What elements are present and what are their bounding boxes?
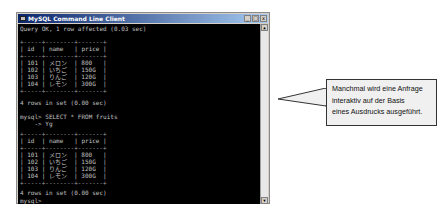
table-row: | 104 | レモン | 300G |	[20, 80, 107, 87]
mysql-console-window: MySQL Command Line Client _ □ x Query OK…	[16, 12, 270, 204]
query-continuation: -> Yg	[20, 120, 53, 127]
table-separator: +-----+--------+-------+	[20, 179, 107, 186]
table-header: | id | name | price |	[20, 137, 107, 144]
close-button[interactable]: x	[260, 15, 267, 22]
window-title: MySQL Command Line Client	[28, 14, 125, 23]
table-separator: +-----+--------+-------+	[20, 38, 107, 45]
table-row: | 103 | りんご | 120G |	[20, 165, 107, 172]
callout-text-line: Manchmal wird eine Anfrage	[332, 83, 431, 95]
table-separator: +-----+--------+-------+	[20, 130, 107, 137]
scroll-down-arrow-icon[interactable]: ▼	[261, 197, 268, 204]
result-summary: 4 rows in set (0.00 sec)	[20, 99, 107, 106]
table-row: | 101 | メロン | 800 |	[20, 59, 107, 66]
table-row: | 101 | メロン | 800 |	[20, 151, 107, 158]
table-separator: +-----+--------+-------+	[20, 52, 107, 59]
table-row: | 103 | りんご | 120G |	[20, 73, 107, 80]
result-summary: 4 rows in set (0.00 sec)	[20, 189, 107, 196]
table-separator: +-----+--------+-------+	[20, 87, 107, 94]
annotation-callout: Manchmal wird eine Anfrage interaktiv au…	[326, 79, 437, 126]
callout-text-line: interaktiv auf der Basis	[332, 95, 431, 107]
console-output[interactable]: Query OK, 1 row affected (0.03 sec) +---…	[18, 24, 261, 204]
table-row: | 104 | レモン | 300G |	[20, 172, 107, 179]
console-app-icon	[20, 16, 26, 21]
result-table-1: +-----+--------+-------+ | id | name | p…	[20, 38, 107, 94]
title-bar[interactable]: MySQL Command Line Client _ □ x	[18, 14, 268, 23]
result-table-2: +-----+--------+-------+ | id | name | p…	[20, 130, 107, 186]
table-separator: +-----+--------+-------+	[20, 144, 107, 151]
table-row: | 102 | いちご | 150G |	[20, 66, 107, 73]
callout-text-line: eines Ausdrucks ausgeführt.	[332, 106, 431, 118]
callout-pointer-icon	[278, 88, 328, 118]
status-line: Query OK, 1 row affected (0.03 sec)	[20, 25, 146, 32]
table-row: | 102 | いちご | 150G |	[20, 158, 107, 165]
maximize-button[interactable]: □	[252, 15, 259, 22]
query-line: mysql> SELECT * FROM fruits	[20, 113, 118, 120]
table-header: | id | name | price |	[20, 45, 107, 52]
minimize-button[interactable]: _	[244, 15, 251, 22]
command-prompt[interactable]: mysql> _	[20, 197, 49, 204]
vertical-scrollbar[interactable]: ▲ ▼	[260, 24, 268, 204]
scroll-up-arrow-icon[interactable]: ▲	[261, 24, 268, 31]
